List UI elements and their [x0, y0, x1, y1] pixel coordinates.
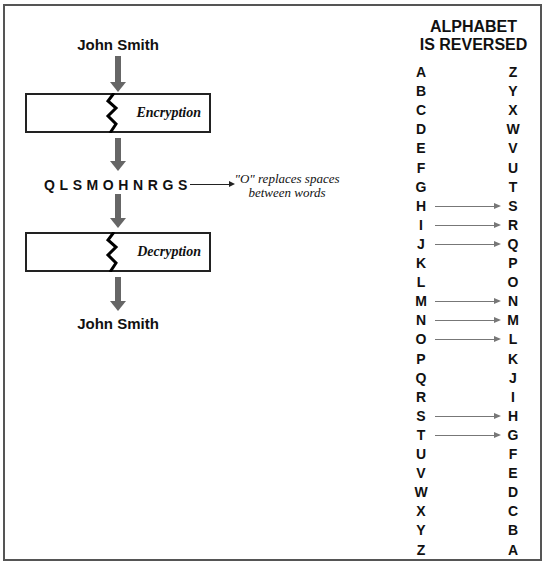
- alphabet-row: MN: [414, 293, 524, 312]
- plain-letter: V: [414, 465, 428, 481]
- alphabet-row: IR: [414, 217, 524, 236]
- plain-letter: G: [414, 179, 428, 195]
- alphabet-row: AZ: [414, 64, 524, 83]
- mapping-arrow-icon: [435, 225, 499, 226]
- plain-letter: I: [414, 217, 428, 233]
- plain-letter: P: [414, 351, 428, 367]
- cipher-letter: M: [506, 312, 520, 328]
- cipher-letter: P: [506, 255, 520, 271]
- encryption-label: Encryption: [136, 105, 201, 121]
- cipher-letter: B: [506, 522, 520, 538]
- cipher-letter: S: [506, 198, 520, 214]
- arrow-down-icon: [115, 277, 121, 302]
- zigzag-icon: [105, 93, 121, 133]
- plain-letter: N: [414, 312, 428, 328]
- cipher-letter: K: [506, 351, 520, 367]
- alphabet-row: VE: [414, 465, 524, 484]
- cipher-letter: Y: [506, 83, 520, 99]
- alphabet-row: JQ: [414, 236, 524, 255]
- cipher-letter: D: [506, 484, 520, 500]
- cipher-letter: N: [506, 293, 520, 309]
- alphabet-row: LO: [414, 274, 524, 293]
- alphabet-row: PK: [414, 351, 524, 370]
- mapping-arrow-icon: [435, 301, 499, 302]
- cipher-letter: Z: [506, 64, 520, 80]
- alphabet-row: YB: [414, 522, 524, 541]
- plain-letter: D: [414, 121, 428, 137]
- mapping-arrow-icon: [435, 339, 499, 340]
- alphabet-row: EV: [414, 140, 524, 159]
- arrow-right-icon: [190, 184, 232, 185]
- cipher-letter: R: [506, 217, 520, 233]
- alphabet-row: UF: [414, 446, 524, 465]
- alphabet-row: NM: [414, 312, 524, 331]
- cipher-letter: H: [506, 408, 520, 424]
- cipher-letter: Q: [506, 236, 520, 252]
- cipher-letter: U: [506, 160, 520, 176]
- cipher-letter: A: [506, 542, 520, 558]
- plain-letter: M: [414, 293, 428, 309]
- cipher-letter: E: [506, 465, 520, 481]
- alphabet-row: KP: [414, 255, 524, 274]
- plaintext-output: John Smith: [18, 315, 218, 332]
- mapping-arrow-icon: [435, 206, 499, 207]
- alphabet-row: WD: [414, 484, 524, 503]
- plain-letter: E: [414, 140, 428, 156]
- cipher-letter: L: [506, 331, 520, 347]
- plain-letter: T: [414, 427, 428, 443]
- cipher-letter: W: [506, 121, 520, 137]
- plain-letter: F: [414, 160, 428, 176]
- title-line-1: ALPHABET: [400, 18, 547, 36]
- cipher-letter: O: [506, 274, 520, 290]
- cipher-letter: X: [506, 102, 520, 118]
- cipher-letter: C: [506, 503, 520, 519]
- alphabet-row: TG: [414, 427, 524, 446]
- title-line-2: IS REVERSED: [400, 36, 547, 54]
- plain-letter: W: [414, 484, 428, 500]
- alphabet-row: OL: [414, 331, 524, 350]
- plain-letter: X: [414, 503, 428, 519]
- plain-letter: U: [414, 446, 428, 462]
- plain-letter: O: [414, 331, 428, 347]
- plaintext-input: John Smith: [18, 36, 218, 53]
- mapping-arrow-icon: [435, 320, 499, 321]
- plain-letter: S: [414, 408, 428, 424]
- plain-letter: Z: [414, 542, 428, 558]
- decryption-label: Decryption: [137, 244, 201, 260]
- encryption-box: Encryption: [25, 93, 211, 133]
- note-line-1: "O" replaces spaces: [232, 172, 342, 186]
- cipher-letter: J: [506, 370, 520, 386]
- plain-letter: B: [414, 83, 428, 99]
- cipher-letter: V: [506, 140, 520, 156]
- alphabet-row: ZA: [414, 542, 524, 561]
- alphabet-row: RI: [414, 389, 524, 408]
- alphabet-row: CX: [414, 102, 524, 121]
- plain-letter: C: [414, 102, 428, 118]
- note-line-2: between words: [232, 186, 342, 200]
- alphabet-row: FU: [414, 160, 524, 179]
- plain-letter: H: [414, 198, 428, 214]
- cipher-letter: I: [506, 389, 520, 405]
- note-text: "O" replaces spaces between words: [232, 172, 342, 200]
- plain-letter: R: [414, 389, 428, 405]
- alphabet-row: DW: [414, 121, 524, 140]
- mapping-arrow-icon: [435, 435, 499, 436]
- zigzag-icon: [105, 232, 121, 272]
- alphabet-row: QJ: [414, 370, 524, 389]
- ciphertext: QLSMOHNRGS: [44, 177, 192, 193]
- arrow-down-icon: [115, 56, 121, 83]
- alphabet-row: SH: [414, 408, 524, 427]
- plain-letter: A: [414, 64, 428, 80]
- mapping-arrow-icon: [435, 416, 499, 417]
- alphabet-row: XC: [414, 503, 524, 522]
- arrow-down-icon: [115, 194, 121, 219]
- alphabet-row: HS: [414, 198, 524, 217]
- alphabet-title: ALPHABET IS REVERSED: [400, 18, 547, 54]
- alphabet-row: BY: [414, 83, 524, 102]
- decryption-box: Decryption: [25, 232, 211, 272]
- mapping-arrow-icon: [435, 244, 499, 245]
- plain-letter: Y: [414, 522, 428, 538]
- plain-letter: K: [414, 255, 428, 271]
- cipher-letter: G: [506, 427, 520, 443]
- plain-letter: L: [414, 274, 428, 290]
